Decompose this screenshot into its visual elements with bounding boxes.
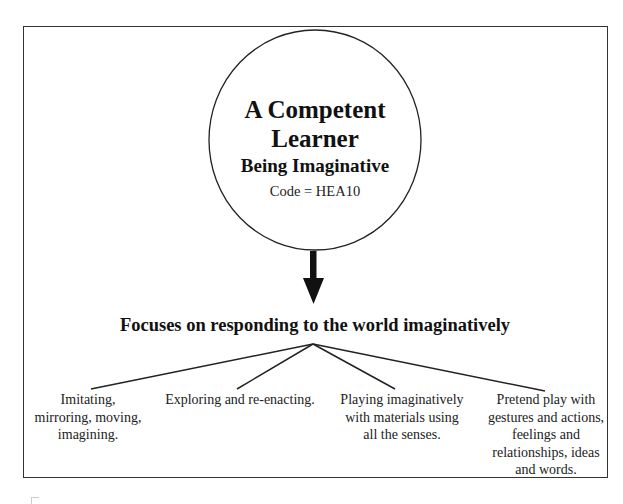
leaf-line: Playing imaginatively (330, 391, 474, 409)
root-title-line1: A Competent (215, 95, 415, 124)
leaf-line: imagining. (28, 426, 148, 444)
root-title: A Competent Learner (215, 95, 415, 153)
focus-heading: Focuses on responding to the world imagi… (100, 314, 530, 336)
branch-line-2 (237, 344, 313, 389)
branch-line-4 (313, 344, 545, 391)
leaf-line: all the senses. (330, 426, 474, 444)
branch-leaf-exploring: Exploring and re-enacting. (155, 391, 325, 409)
leaf-line: relationships, ideas (480, 444, 612, 462)
leaf-line: with materials using (330, 409, 474, 427)
leaf-line: feelings and (480, 426, 612, 444)
leaf-line: gestures and actions, (480, 409, 612, 427)
root-subtitle: Being Imaginative (215, 155, 415, 177)
root-title-line2: Learner (215, 124, 415, 153)
branch-leaf-pretend-play: Pretend play with gestures and actions, … (480, 391, 612, 479)
down-arrow-icon (303, 251, 324, 304)
branch-leaf-playing: Playing imaginatively with materials usi… (330, 391, 474, 444)
cropped-glyph-mark (31, 497, 39, 504)
leaf-line: Imitating, (28, 391, 148, 409)
branch-leaf-imitating: Imitating, mirroring, moving, imagining. (28, 391, 148, 444)
leaf-line: Exploring and re-enacting. (155, 391, 325, 409)
leaf-line: mirroring, moving, (28, 409, 148, 427)
leaf-line: Pretend play with (480, 391, 612, 409)
branch-line-3 (313, 344, 395, 389)
root-code: Code = HEA10 (215, 182, 415, 200)
branch-line-1 (91, 344, 313, 389)
leaf-line: and words. (480, 461, 612, 479)
